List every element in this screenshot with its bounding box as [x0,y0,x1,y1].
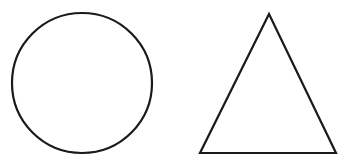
circle-shape [12,13,152,153]
diagram-canvas [0,0,348,161]
triangle-shape [200,14,336,153]
